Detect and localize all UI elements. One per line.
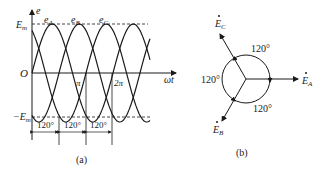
spacing-label-3: 120° [90, 120, 108, 130]
curve-label-eC: eC [99, 14, 108, 27]
caption-b: (b) [236, 147, 248, 159]
origin-label: O [20, 67, 28, 79]
label-EB: EB [212, 124, 224, 137]
label-EA: EA [301, 75, 313, 88]
waveform-panel: e ωt O Em −Em π 2π eA eB eC 120° 120° 12… [13, 5, 176, 166]
neg-em-label: −Em [13, 111, 31, 124]
spacing-label-2: 120° [64, 120, 82, 130]
phasor-panel: 120° 120° 120° EA EC EB (b) [201, 15, 313, 159]
pi-label: π [76, 78, 81, 88]
dot-EB [216, 121, 218, 123]
caption-a: (a) [76, 154, 87, 166]
phasor-EC [220, 34, 246, 79]
angle-label-bottom: 120° [253, 103, 272, 114]
dot-EA [305, 72, 307, 74]
three-phase-diagram: e ωt O Em −Em π 2π eA eB eC 120° 120° 12… [0, 0, 325, 170]
angle-label-top: 120° [251, 43, 270, 54]
label-EC: EC [214, 18, 226, 31]
curve-label-eA: eA [44, 14, 53, 27]
y-axis-label: e [36, 5, 41, 16]
curve-label-eB: eB [71, 14, 80, 27]
two-pi-label: 2π [114, 78, 124, 88]
x-axis-label: ωt [164, 74, 174, 85]
dot-EC [218, 15, 220, 17]
spacing-label-1: 120° [37, 120, 55, 130]
em-label: Em [15, 19, 27, 32]
angle-label-left: 120° [201, 74, 220, 85]
